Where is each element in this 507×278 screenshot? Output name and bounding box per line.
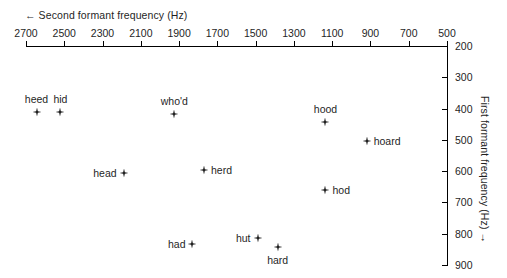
x-tick-label: 2700 [14, 27, 37, 39]
y-tick-label: 600 [455, 165, 473, 177]
data-point-marker [188, 240, 197, 249]
y-tick [442, 109, 448, 110]
data-point-label: heed [25, 93, 48, 105]
x-tick [103, 41, 104, 47]
x-tick-label: 900 [362, 27, 380, 39]
x-tick [217, 41, 218, 47]
y-tick [442, 202, 448, 203]
y-tick-label: 700 [455, 196, 473, 208]
x-tick [294, 41, 295, 47]
x-tick-label: 2100 [129, 27, 152, 39]
data-point-label: who'd [161, 95, 188, 107]
y-axis-title: First formant frequency (Hz) → [479, 96, 491, 243]
x-tick-label: 1500 [244, 27, 267, 39]
data-point-marker [321, 185, 330, 194]
data-point-label: hid [53, 93, 67, 105]
x-tick [332, 41, 333, 47]
data-point-marker [32, 107, 41, 116]
y-tick [442, 46, 448, 47]
data-point-label: hard [267, 254, 288, 266]
data-point-marker [170, 110, 179, 119]
x-tick-label: 1100 [321, 27, 344, 39]
x-tick [64, 41, 65, 47]
y-tick [442, 265, 448, 266]
vowel-formant-chart: ← Second formant frequency (Hz) First fo… [0, 0, 507, 278]
x-tick-label: 500 [438, 27, 456, 39]
x-tick [141, 41, 142, 47]
x-tick [26, 41, 27, 47]
data-point-label: hut [236, 232, 251, 244]
x-tick [256, 41, 257, 47]
data-point-label: hoard [374, 135, 401, 147]
data-point-marker [56, 107, 65, 116]
data-point-label: hod [332, 184, 350, 196]
x-tick-label: 1700 [206, 27, 229, 39]
y-tick [442, 171, 448, 172]
y-tick-label: 800 [455, 228, 473, 240]
data-point-marker [253, 234, 262, 243]
x-tick [409, 41, 410, 47]
x-tick-label: 2500 [53, 27, 76, 39]
data-point-label: had [168, 238, 186, 250]
y-tick [442, 140, 448, 141]
data-point-marker [321, 118, 330, 127]
x-tick-label: 2300 [91, 27, 114, 39]
data-point-marker [119, 168, 128, 177]
y-axis-line [447, 46, 448, 265]
x-axis-line [26, 46, 447, 47]
data-point-label: hood [314, 103, 337, 115]
x-tick [370, 41, 371, 47]
y-tick-label: 200 [455, 40, 473, 52]
x-tick-label: 1900 [167, 27, 190, 39]
x-tick-label: 1300 [282, 27, 305, 39]
data-point-marker [199, 165, 208, 174]
y-tick [442, 234, 448, 235]
y-tick-label: 300 [455, 71, 473, 83]
data-point-marker [273, 243, 282, 252]
x-tick [179, 41, 180, 47]
data-point-label: head [93, 167, 116, 179]
x-axis-title: ← Second formant frequency (Hz) [25, 9, 187, 21]
y-tick [442, 77, 448, 78]
x-tick-label: 700 [400, 27, 418, 39]
y-tick-label: 400 [455, 103, 473, 115]
data-point-label: herd [211, 164, 232, 176]
y-tick-label: 900 [455, 259, 473, 271]
data-point-marker [362, 137, 371, 146]
y-tick-label: 500 [455, 134, 473, 146]
